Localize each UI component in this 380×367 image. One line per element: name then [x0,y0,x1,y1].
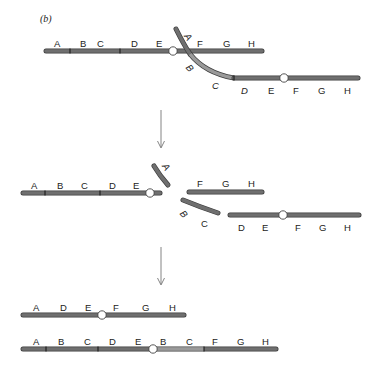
gene-label: E [262,222,268,233]
gene-label: G [319,222,326,233]
gene-label: A [54,38,61,49]
gene-label: C [84,336,91,347]
gene-label: B [160,336,166,347]
stage2: A B C D E A F G H B C D E F G H [23,160,359,233]
gene-label: A [33,302,40,313]
gene-label: G [222,178,229,189]
gene-label: A [160,160,173,172]
gene-label: F [197,38,203,49]
panel-label: (b) [40,13,52,25]
centromere [98,311,106,319]
gene-label: B [80,38,86,49]
gene-label: D [131,38,138,49]
gene-label: H [344,85,351,96]
gene-label: D [109,336,116,347]
gene-label: E [135,336,141,347]
gene-label: G [318,85,325,96]
gene-label: E [156,38,162,49]
arrow-down-icon [158,110,165,148]
gene-label: F [212,336,218,347]
deletion-chromosome [23,311,184,319]
centromere [169,47,177,55]
gene-label: C [97,38,104,49]
stage3: A D E F G H A B C D E B C F G H [23,302,276,353]
gene-label: B [57,180,63,191]
centromere [279,211,287,219]
diagram-canvas: (b) A B C D E F G H A B [0,0,380,367]
gene-label: D [60,302,67,313]
gene-label: E [268,85,274,96]
gene-label: B [184,62,197,74]
gene-label: D [109,180,116,191]
gene-label: E [85,302,91,313]
gene-label: H [344,222,351,233]
gene-label: F [197,178,203,189]
gene-label: C [186,336,193,347]
gene-label: D [241,85,248,96]
gene-label: C [81,180,88,191]
centromere [149,345,157,353]
lower-fragment [230,211,359,219]
gene-label: G [223,38,230,49]
gene-label: G [237,336,244,347]
centromere [146,189,154,197]
gene-label: A [33,336,40,347]
gene-label: F [293,85,299,96]
stage1: A B C D E F G H A B C D E F G H [46,29,358,96]
gene-label: F [295,222,301,233]
crossing-chromosome [176,29,358,81]
gene-label: H [248,38,255,49]
gene-label: B [58,336,64,347]
gene-label: C [201,218,208,229]
gene-label: A [31,180,38,191]
gene-label: F [113,302,119,313]
left-fragment [23,189,160,197]
gene-label: D [238,222,245,233]
gene-label: G [142,302,149,313]
gene-label: E [133,180,139,191]
gene-label: H [248,178,255,189]
gene-label: B [178,208,191,220]
gene-label: H [262,336,269,347]
arrow-down-icon [158,247,165,285]
gene-label: C [212,80,219,91]
centromere [280,74,288,82]
gene-label: H [169,302,176,313]
top-chromosome [46,49,262,54]
